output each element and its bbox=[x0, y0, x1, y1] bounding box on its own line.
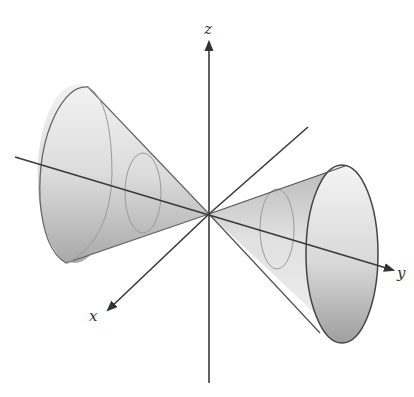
x-axis-label: x bbox=[89, 307, 98, 325]
left-cone bbox=[38, 84, 209, 263]
z-axis-label: z bbox=[203, 20, 212, 38]
y-axis-label: y bbox=[396, 264, 406, 282]
double-cone-diagram: z y x bbox=[0, 0, 414, 397]
